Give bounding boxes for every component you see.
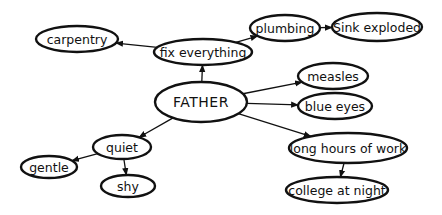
edge-father-to-quiet [139,118,173,137]
node-sink-exploded: Sink exploded [332,13,422,41]
node-quiet: quiet [93,135,151,159]
node-shy: shy [101,175,155,197]
node-label: plumbing [256,21,315,36]
edge-father-to-fix-everything [202,65,203,82]
nodes-layer: FATHERfix everythingcarpentryplumbingSin… [21,13,422,203]
node-label: long hours of work [290,141,407,156]
node-college-at-night: college at night [286,177,388,203]
node-label: shy [117,179,139,194]
node-label: fix everything [160,45,247,60]
node-blue-eyes: blue eyes [298,93,372,119]
node-carpentry: carpentry [36,26,118,52]
node-fix-everything: fix everything [154,39,252,65]
edge-fix-everything-to-plumbing [236,36,258,42]
edge-quiet-to-gentle [72,154,98,161]
node-label: college at night [288,183,386,198]
edge-quiet-to-shy [124,159,126,175]
node-label: blue eyes [305,99,365,114]
edge-father-to-long-hours-of-work [238,114,310,137]
edge-father-to-measles [243,82,302,94]
edge-long-hours-of-work-to-college-at-night [340,163,344,177]
node-measles: measles [298,63,368,89]
node-plumbing: plumbing [250,15,320,41]
node-label: Sink exploded [333,20,421,35]
node-long-hours-of-work: long hours of work [289,133,407,163]
node-father: FATHER [155,82,247,122]
edge-father-to-blue-eyes [247,103,298,105]
node-gentle: gentle [21,156,77,178]
node-label: FATHER [173,94,229,110]
node-label: quiet [106,140,138,155]
node-label: gentle [29,160,69,175]
edge-fix-everything-to-carpentry [116,43,157,47]
node-label: measles [307,69,359,84]
mind-map-diagram: FATHERfix everythingcarpentryplumbingSin… [0,0,442,215]
node-label: carpentry [47,32,108,47]
